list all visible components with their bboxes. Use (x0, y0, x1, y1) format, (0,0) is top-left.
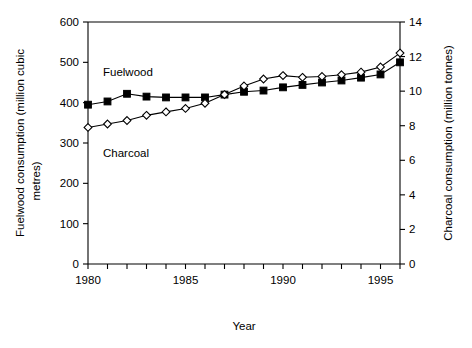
right-tick-label: 8 (409, 120, 415, 132)
right-tick-label: 12 (409, 51, 422, 63)
right-tick-label: 4 (409, 189, 416, 201)
left-tick-label: 200 (60, 177, 79, 189)
data-point-marker-square (124, 90, 131, 97)
right-tick-label: 0 (409, 258, 415, 270)
left-tick-label: 400 (60, 97, 79, 109)
x-tick-label: 1980 (75, 274, 101, 286)
y-axis-title-line1: Fuelwood consumption (million cubic (14, 49, 26, 237)
right-tick-label: 2 (409, 223, 415, 235)
left-tick-label: 100 (60, 218, 79, 230)
annotation-fuelwood: Fuelwood (103, 66, 153, 78)
right-tick-label: 6 (409, 154, 415, 166)
data-point-marker-square (397, 59, 404, 66)
x-tick-label: 1990 (270, 274, 296, 286)
chart-container: 0100200300400500600 02468101214 19801985… (0, 0, 472, 348)
y-axis-title-line2: metres) (30, 161, 42, 200)
data-point-marker-square (182, 94, 189, 101)
data-point-marker-square (260, 87, 267, 94)
x-axis-title: Year (232, 320, 255, 332)
data-point-marker-square (280, 84, 287, 91)
left-tick-label: 500 (60, 56, 79, 68)
left-tick-label: 300 (60, 137, 79, 149)
left-tick-label: 0 (73, 258, 79, 270)
right-tick-label: 14 (409, 16, 422, 28)
data-point-marker-square (163, 94, 170, 101)
x-tick-label: 1985 (173, 274, 199, 286)
x-tick-label: 1995 (368, 274, 394, 286)
dual-axis-line-chart: 0100200300400500600 02468101214 19801985… (0, 0, 472, 348)
data-point-marker-square (377, 71, 384, 78)
right-tick-label: 10 (409, 85, 422, 97)
data-point-marker-square (143, 93, 150, 100)
data-point-marker-square (104, 98, 111, 105)
data-point-marker-square (85, 101, 92, 108)
y2-axis-title: Charcoal consumption (million tonnes) (442, 45, 454, 241)
data-point-marker-square (299, 82, 306, 89)
annotation-charcoal: Charcoal (103, 147, 149, 159)
left-tick-label: 600 (60, 16, 79, 28)
